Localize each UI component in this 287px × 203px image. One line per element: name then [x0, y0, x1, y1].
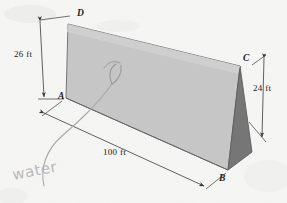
- vertex-label-a: A: [58, 92, 64, 102]
- dimension-label-100ft: 100 ft: [103, 148, 126, 157]
- vertex-label-c: C: [243, 54, 249, 64]
- vertex-label-d: D: [77, 9, 84, 19]
- figure-container: D A C B 26 ft 24 ft 100 ft water: [0, 0, 287, 203]
- dimension-label-24ft: 24 ft: [253, 84, 271, 93]
- dimension-label-26ft: 26 ft: [14, 50, 32, 59]
- vertex-label-b: B: [219, 174, 225, 184]
